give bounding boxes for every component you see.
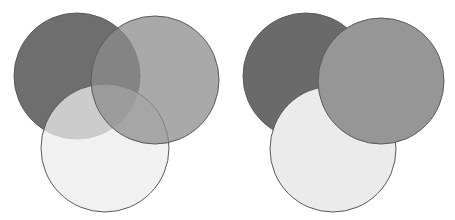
medium-circle-translucent bbox=[91, 16, 219, 144]
panel-translucent bbox=[14, 13, 219, 212]
panel-opaque bbox=[243, 13, 444, 212]
circles-diagram bbox=[0, 0, 455, 220]
medium-circle-opaque bbox=[318, 18, 444, 144]
